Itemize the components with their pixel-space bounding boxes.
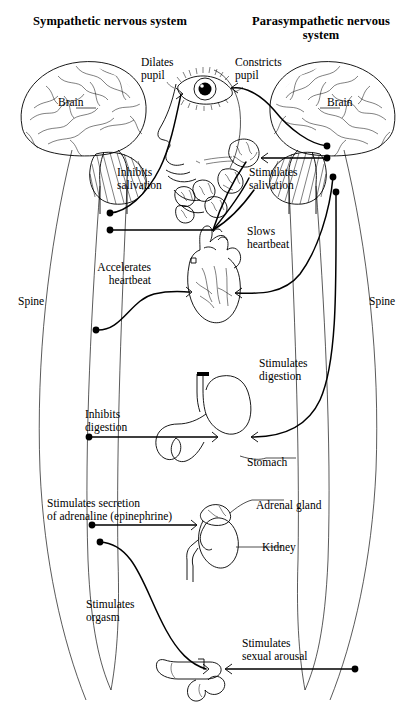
label-stimulates-digestion: Stimulates digestion [259, 357, 323, 383]
nerve-parasympathetic-arousal [225, 664, 358, 674]
diagram-canvas: .ln { fill:none; stroke:#000; stroke-wid… [0, 0, 416, 713]
label-dilates-pupil: Dilates pupil [141, 56, 193, 82]
label-brain-left: Brain [58, 96, 98, 109]
label-slows-heartbeat: Slows heartbeat [247, 225, 307, 251]
label-inhibits-digestion: Inhibits digestion [85, 408, 145, 434]
nerve-sympathetic-pupil [107, 88, 183, 216]
label-accelerates-heartbeat: Accelerates heartbeat [84, 261, 151, 287]
label-kidney: Kidney [262, 541, 312, 554]
label-inhibits-salivation: Inhibits salivation [117, 166, 189, 192]
label-stimulates-orgasm: Stimulates orgasm [86, 598, 160, 624]
label-constricts-pupil: Constricts pupil [235, 56, 299, 82]
label-stimulates-salivation: Stimulates salivation [249, 166, 325, 192]
label-stomach: Stomach [247, 456, 299, 469]
label-spine-left: Spine [18, 295, 58, 308]
label-stimulates-adrenaline: Stimulates secretion of adrenaline (epin… [47, 497, 237, 523]
stomach [156, 372, 251, 462]
label-brain-right: Brain [327, 96, 367, 109]
nerve-sympathetic-heart [93, 287, 192, 333]
heading-parasympathetic: Parasympathetic nervous system [236, 14, 406, 42]
genitals [156, 659, 224, 701]
spine-right [289, 186, 329, 690]
label-adrenal-gland: Adrenal gland [256, 499, 352, 512]
heading-sympathetic: Sympathetic nervous system [22, 14, 198, 28]
label-stimulates-sexual-arousal: Stimulates sexual arousal [242, 637, 340, 663]
label-spine-right: Spine [369, 295, 411, 308]
heart [188, 226, 241, 323]
